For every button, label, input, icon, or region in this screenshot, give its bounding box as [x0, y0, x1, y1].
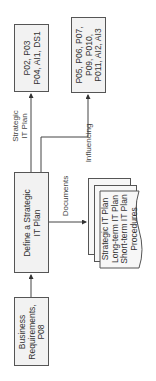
business-requirements-label: Business Requirements, P08 [17, 304, 46, 359]
define-plan-box: Define a Strategic IT Plan [14, 172, 49, 273]
business-requirements-box: Business Requirements, P08 [14, 297, 49, 366]
documents-stack-label: Strategic IT Plan Long-term IT Plan Shor… [101, 194, 139, 263]
define-plan-label: Define a Strategic IT Plan [22, 189, 41, 257]
po-group-1-box: P02, P03 P04, AI1, DS1 [14, 24, 49, 92]
po-group-2-box: P05, P06, P07, P09, P010, P011, AI2, AI3 [71, 17, 106, 93]
po-group-1-label: P02, P03 P04, AI1, DS1 [22, 31, 41, 84]
strategic-it-plan-edge-label: Strategic IT Plan [11, 106, 31, 146]
influencing-edge-label: Influencing [84, 121, 96, 165]
po-group-2-label: P05, P06, P07, P09, P010, P011, AI2, AI3 [74, 26, 103, 83]
documents-edge-label: Documents [61, 175, 73, 217]
